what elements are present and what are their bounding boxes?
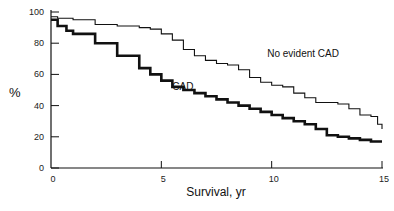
y-tick-label: 100 [29,7,44,17]
curves [51,17,382,142]
y-axis-label: % [9,85,21,100]
x-tick-label: 10 [269,174,279,184]
y-tick-label: 0 [39,163,44,173]
cad-curve [51,20,382,142]
x-tick-label: 0 [50,174,55,184]
y-tick-label: 60 [34,69,44,79]
x-axis-label: Survival, yr [186,185,245,199]
no-evident-cad-curve [51,17,382,129]
y-tick-label: 40 [34,101,44,111]
x-tick-label: 15 [379,174,389,184]
annotation-no-evident-cad: No evident CAD [267,48,339,59]
survival-chart: 051015020406080100 % Survival, yr No evi… [0,0,394,211]
y-tick-label: 20 [34,132,44,142]
annotation-cad: CAD [172,81,193,92]
x-tick-label: 5 [161,174,166,184]
y-tick-label: 80 [34,38,44,48]
axes [51,10,383,168]
